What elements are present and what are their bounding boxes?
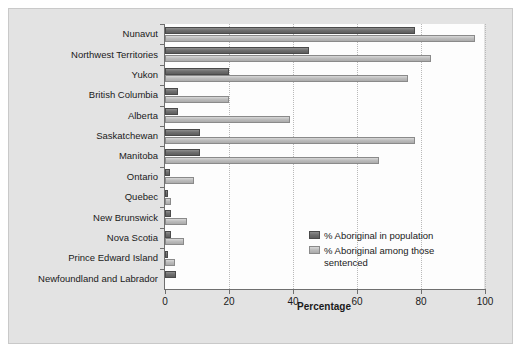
chart-category-row: Northwest Territories <box>165 44 484 64</box>
chart-category-row: Newfoundland and Labrador <box>165 269 484 289</box>
y-axis-category-label: British Columbia <box>89 90 158 100</box>
y-axis-category-label: Saskatchewan <box>96 131 158 141</box>
y-axis-tick <box>160 269 165 270</box>
y-axis-category-label: Ontario <box>127 172 158 182</box>
y-axis-tick <box>160 44 165 45</box>
chart-bar <box>165 27 415 34</box>
chart-bar <box>165 251 168 258</box>
chart-legend: % Aboriginal in population % Aboriginal … <box>309 230 444 272</box>
y-axis-category-label: Yukon <box>132 70 158 80</box>
chart-bar <box>165 238 184 245</box>
y-axis-category-label: Alberta <box>128 111 158 121</box>
x-axis-line <box>164 289 485 290</box>
y-axis-category-label: Quebec <box>125 192 158 202</box>
y-axis-tick <box>160 187 165 188</box>
y-axis-tick <box>160 85 165 86</box>
chart-bar <box>165 149 200 156</box>
legend-label-sentenced: % Aboriginal among those sentenced <box>324 245 444 269</box>
y-axis-tick <box>160 207 165 208</box>
y-axis-tick <box>160 24 165 25</box>
chart-category-row: Ontario <box>165 167 484 187</box>
chart-category-row: Yukon <box>165 65 484 85</box>
chart-bar <box>165 47 309 54</box>
y-axis-tick <box>160 126 165 127</box>
x-axis-tick <box>485 289 486 294</box>
chart-bar <box>165 157 379 164</box>
y-axis-tick <box>160 248 165 249</box>
legend-item-sentenced: % Aboriginal among those sentenced <box>309 245 444 269</box>
chart-bar <box>165 259 175 266</box>
legend-item-population: % Aboriginal in population <box>309 230 444 242</box>
chart-bar <box>165 271 176 278</box>
legend-label-population: % Aboriginal in population <box>324 230 433 242</box>
y-axis-category-label: Manitoba <box>119 151 158 161</box>
chart-bar <box>165 68 229 75</box>
y-axis-category-label: New Brunswick <box>93 213 158 223</box>
chart-category-row: Quebec <box>165 187 484 207</box>
chart-bar <box>165 35 475 42</box>
legend-swatch-sentenced <box>309 246 320 254</box>
chart-bar <box>165 210 171 217</box>
x-axis-title: Percentage <box>164 301 484 312</box>
chart-bar <box>165 218 187 225</box>
chart-bar <box>165 96 229 103</box>
y-axis-category-label: Prince Edward Island <box>68 253 158 263</box>
chart-bar <box>165 129 200 136</box>
y-axis-category-label: Newfoundland and Labrador <box>38 274 158 284</box>
chart-bar <box>165 137 415 144</box>
gridline <box>485 24 487 289</box>
legend-swatch-population <box>309 231 320 239</box>
chart-bar <box>165 177 194 184</box>
chart-figure: 020406080100NunavutNorthwest Territories… <box>8 8 513 344</box>
chart-bar <box>165 198 171 205</box>
chart-category-row: New Brunswick <box>165 207 484 227</box>
chart-bar <box>165 55 431 62</box>
chart-bar <box>165 108 178 115</box>
y-axis-tick <box>160 65 165 66</box>
chart-category-row: Saskatchewan <box>165 126 484 146</box>
y-axis-tick <box>160 106 165 107</box>
y-axis-category-label: Nova Scotia <box>107 233 158 243</box>
y-axis-tick <box>160 146 165 147</box>
chart-bar <box>165 190 168 197</box>
y-axis-tick <box>160 167 165 168</box>
chart-bar <box>165 231 171 238</box>
chart-bar <box>165 88 178 95</box>
chart-category-row: British Columbia <box>165 85 484 105</box>
chart-category-row: Nunavut <box>165 24 484 44</box>
chart-category-row: Alberta <box>165 106 484 126</box>
chart-bar <box>165 75 408 82</box>
chart-bar <box>165 169 170 176</box>
y-axis-category-label: Northwest Territories <box>71 50 158 60</box>
chart-bar <box>165 116 290 123</box>
y-axis-tick <box>160 228 165 229</box>
y-axis-category-label: Nunavut <box>123 29 158 39</box>
chart-category-row: Manitoba <box>165 146 484 166</box>
